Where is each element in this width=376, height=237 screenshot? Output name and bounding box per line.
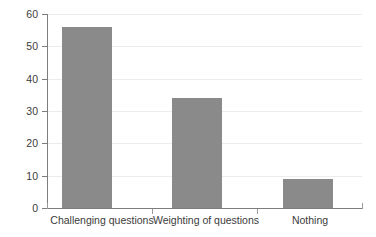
y-axis-label-10: 10 xyxy=(12,171,38,182)
plot-area xyxy=(48,14,362,208)
y-axis-label-30: 30 xyxy=(12,106,38,117)
y-axis-label-60: 60 xyxy=(12,9,38,20)
x-axis-label-nothing: Nothing xyxy=(241,214,376,226)
bar-weighting-of-questions[interactable] xyxy=(172,98,222,208)
bar-chart: 60 50 40 30 20 10 0 Challenging question… xyxy=(0,0,376,237)
y-tick-50 xyxy=(42,46,47,47)
y-tick-20 xyxy=(42,143,47,144)
x-axis-line xyxy=(47,208,363,209)
x-axis-cap-left xyxy=(47,203,48,209)
bar-nothing[interactable] xyxy=(283,179,333,208)
y-axis-label-50: 50 xyxy=(12,41,38,52)
y-axis-line xyxy=(47,14,48,209)
bar-challenging-questions[interactable] xyxy=(62,27,112,208)
x-axis-cap-right xyxy=(362,203,363,209)
y-axis-label-40: 40 xyxy=(12,74,38,85)
y-axis-label-20: 20 xyxy=(12,138,38,149)
y-tick-60 xyxy=(42,14,47,15)
y-axis-label-0: 0 xyxy=(12,203,38,214)
y-tick-30 xyxy=(42,111,47,112)
y-tick-40 xyxy=(42,79,47,80)
gridline-60 xyxy=(48,14,362,15)
y-tick-10 xyxy=(42,176,47,177)
